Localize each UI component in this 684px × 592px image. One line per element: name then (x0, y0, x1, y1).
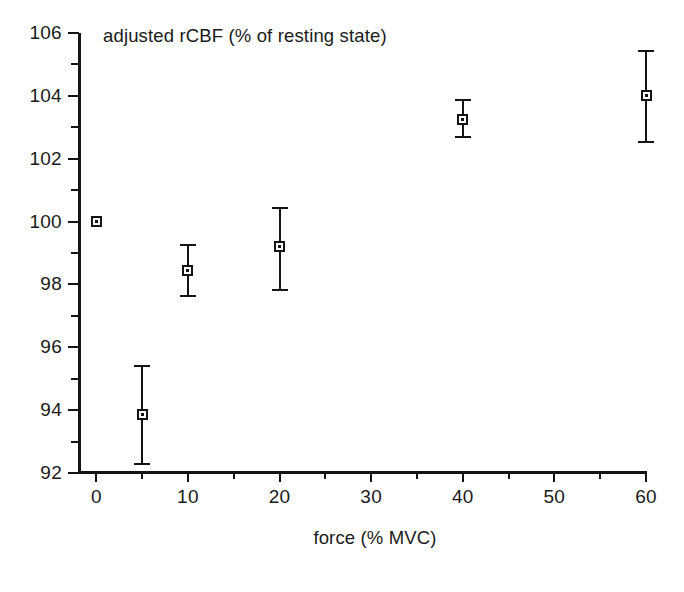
x-tick-minor (324, 471, 326, 479)
y-tick-label-text: 106 (2, 23, 62, 42)
x-tick-major (187, 471, 189, 482)
x-tick-minor (599, 471, 601, 479)
x-tick-label: 40 (433, 487, 493, 507)
error-bar-cap-upper (134, 365, 150, 367)
error-bar-cap-upper (272, 207, 288, 209)
x-tick-label-text: 0 (91, 486, 102, 507)
error-bar-cap-lower (134, 463, 150, 465)
data-point (84, 214, 108, 230)
x-axis-title: force (% MVC) (0, 527, 684, 549)
y-tick-label-text: 102 (2, 149, 62, 168)
data-point (268, 199, 292, 298)
data-marker (137, 409, 148, 420)
x-tick-label-text: 60 (635, 486, 657, 507)
y-tick-label: 92 (0, 463, 62, 482)
x-tick-label: 30 (341, 487, 401, 507)
y-tick-minor (71, 378, 79, 380)
chart-figure: adjusted rCBF (% of resting state) 92949… (0, 0, 684, 592)
error-bar-cap-upper (638, 50, 654, 52)
y-tick-minor (71, 126, 79, 128)
data-marker (457, 114, 468, 125)
y-tick-label-text: 98 (2, 274, 62, 293)
data-point (130, 357, 154, 474)
y-tick-label: 104 (0, 86, 62, 105)
x-tick-minor (508, 471, 510, 479)
y-tick-label-text: 94 (2, 400, 62, 419)
y-tick-major (68, 32, 79, 34)
y-tick-label-text: 92 (2, 463, 62, 482)
y-tick-minor (71, 315, 79, 317)
x-tick-label: 0 (66, 487, 126, 507)
x-tick-label: 20 (250, 487, 310, 507)
error-bar-cap-upper (455, 99, 471, 101)
x-tick-major (645, 471, 647, 482)
y-tick-minor (71, 63, 79, 65)
x-tick-major (95, 471, 97, 482)
y-tick-minor (71, 252, 79, 254)
data-point (634, 42, 658, 151)
y-tick-major (68, 158, 79, 160)
data-point (176, 236, 200, 305)
error-bar-cap-lower (272, 289, 288, 291)
error-bar-cap-upper (180, 244, 196, 246)
y-tick-minor (71, 441, 79, 443)
data-marker (91, 216, 102, 227)
x-tick-minor (233, 471, 235, 479)
x-tick-label-text: 40 (452, 486, 474, 507)
x-tick-major (370, 471, 372, 482)
chart-title: adjusted rCBF (% of resting state) (103, 25, 387, 47)
x-tick-label-text: 30 (360, 486, 382, 507)
data-marker (274, 241, 285, 252)
error-bar-cap-lower (455, 136, 471, 138)
x-tick-major (279, 471, 281, 482)
y-tick-label-text: 96 (2, 337, 62, 356)
y-tick-label: 106 (0, 23, 62, 42)
data-marker (641, 90, 652, 101)
x-tick-label-text: 50 (544, 486, 566, 507)
data-point (451, 91, 475, 146)
error-bar-cap-lower (638, 141, 654, 143)
x-tick-major (462, 471, 464, 482)
error-bar-cap-lower (180, 295, 196, 297)
x-tick-label: 60 (616, 487, 676, 507)
y-tick-label: 102 (0, 149, 62, 168)
x-tick-label: 10 (158, 487, 218, 507)
x-tick-label: 50 (524, 487, 584, 507)
y-tick-label: 100 (0, 212, 62, 231)
y-tick-major (68, 346, 79, 348)
x-tick-major (553, 471, 555, 482)
x-tick-label-text: 10 (177, 486, 199, 507)
x-axis-line (78, 471, 646, 474)
data-marker (182, 265, 193, 276)
y-tick-major (68, 472, 79, 474)
x-tick-label-text: 20 (269, 486, 291, 507)
y-tick-major (68, 283, 79, 285)
y-tick-major (68, 95, 79, 97)
y-tick-label-text: 104 (2, 86, 62, 105)
y-tick-label-text: 100 (2, 212, 62, 231)
y-tick-minor (71, 189, 79, 191)
y-tick-label: 98 (0, 274, 62, 293)
x-tick-minor (416, 471, 418, 479)
y-tick-label: 96 (0, 337, 62, 356)
y-tick-label: 94 (0, 400, 62, 419)
y-tick-major (68, 221, 79, 223)
y-tick-major (68, 409, 79, 411)
